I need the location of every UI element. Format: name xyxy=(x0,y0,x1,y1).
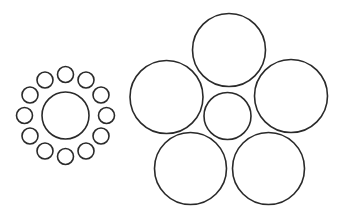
small-surround-circle xyxy=(78,143,94,159)
large-surround-circle xyxy=(255,60,328,133)
ebbinghaus-illusion-figure xyxy=(0,0,344,224)
small-surround-circle xyxy=(37,143,53,159)
small-surround-circle xyxy=(58,67,74,83)
right-circle-group xyxy=(130,14,328,205)
small-surround-circle xyxy=(58,149,74,165)
large-surround-circle xyxy=(233,133,305,205)
small-surround-circle xyxy=(93,128,109,144)
small-surround-circle xyxy=(99,108,115,124)
small-surround-circle xyxy=(37,72,53,88)
small-surround-circle xyxy=(93,87,109,103)
large-surround-circle xyxy=(193,14,266,87)
small-surround-circle xyxy=(22,87,38,103)
small-surround-circle xyxy=(17,108,33,124)
right-center-circle xyxy=(204,93,251,140)
small-surround-circle xyxy=(22,128,38,144)
large-surround-circle xyxy=(130,61,203,134)
large-surround-circle xyxy=(155,133,227,205)
illusion-canvas xyxy=(0,0,344,224)
small-surround-circle xyxy=(78,72,94,88)
left-center-circle xyxy=(42,92,89,139)
left-circle-group xyxy=(17,67,115,165)
